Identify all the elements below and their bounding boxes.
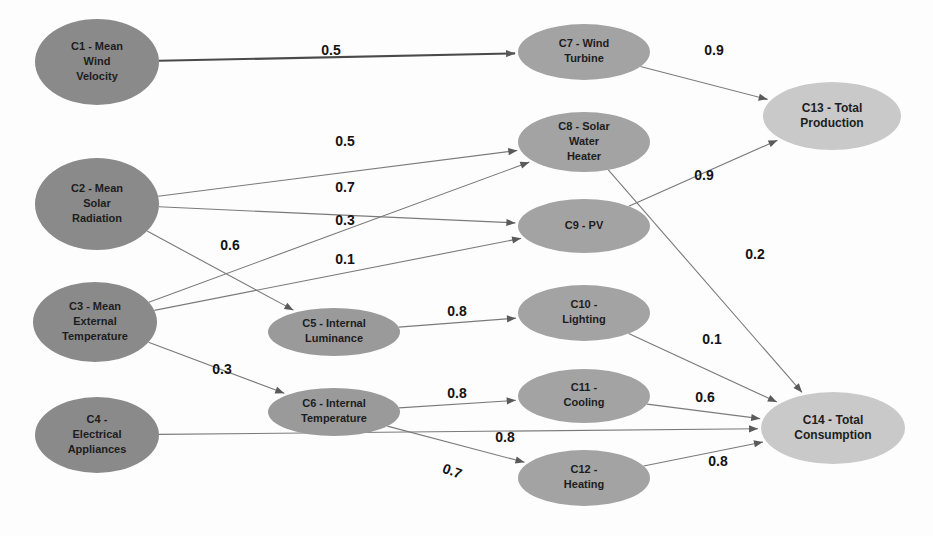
edge-weight-c10-c14: 0.1 — [702, 331, 722, 347]
arrowhead-c3-c6 — [275, 387, 285, 394]
node-shape-c1[interactable] — [35, 19, 159, 105]
node-shape-c9[interactable] — [518, 199, 650, 253]
node-shape-c2[interactable] — [35, 158, 159, 250]
node-shape-c3[interactable] — [33, 282, 157, 362]
node-shape-c5[interactable] — [268, 308, 400, 356]
node-shape-c14[interactable] — [761, 392, 905, 464]
arrowhead-c4-c14 — [749, 425, 758, 432]
edge-weight-c7-c13: 0.9 — [704, 42, 724, 58]
edge-weight-c5-c10: 0.8 — [447, 303, 467, 319]
node-c7[interactable]: C7 - WindTurbine — [518, 24, 650, 80]
edge-weight-c2-c5: 0.6 — [220, 237, 240, 253]
edge-weight-c2-c8: 0.5 — [335, 133, 355, 149]
node-c14[interactable]: C14 - TotalConsumption — [761, 392, 905, 464]
arrowhead-c3-c9 — [512, 237, 522, 244]
node-c11[interactable]: C11 -Cooling — [518, 369, 650, 423]
node-c5[interactable]: C5 - InternalLuminance — [268, 308, 400, 356]
edge-c4-to-c14 — [159, 429, 758, 435]
edge-weight-c12-c14: 0.8 — [708, 453, 728, 469]
node-c9[interactable]: C9 - PV — [518, 199, 650, 253]
node-c3[interactable]: C3 - MeanExternalTemperature — [33, 282, 157, 362]
node-c4[interactable]: C4 -ElectricalAppliances — [35, 397, 159, 473]
node-shape-c7[interactable] — [518, 24, 650, 80]
edge-c3-to-c9 — [154, 238, 521, 310]
edge-weight-c6-c11: 0.8 — [447, 385, 467, 401]
node-c8[interactable]: C8 - SolarWaterHeater — [518, 112, 650, 172]
node-c12[interactable]: C12 -Heating — [518, 450, 650, 506]
arrowhead-c10-c14 — [767, 395, 777, 402]
node-c10[interactable]: C10 -Lighting — [518, 285, 650, 341]
arrowhead-c2-c5 — [284, 303, 294, 310]
arrowhead-c9-c13 — [768, 140, 778, 147]
node-shape-c13[interactable] — [763, 82, 901, 150]
node-shape-c6[interactable] — [268, 388, 400, 436]
edge-weight-c11-c14: 0.6 — [695, 389, 715, 405]
arrowhead-c6-c11 — [507, 397, 516, 404]
node-c6[interactable]: C6 - InternalTemperature — [268, 388, 400, 436]
node-shape-c11[interactable] — [518, 369, 650, 423]
arrowhead-c2-c9 — [506, 219, 515, 226]
edge-c11-to-c14 — [647, 404, 760, 419]
node-c13[interactable]: C13 - TotalProduction — [763, 82, 901, 150]
arrowhead-c5-c10 — [507, 315, 516, 322]
nodes-layer: C1 - MeanWindVelocityC2 - MeanSolarRadia… — [33, 19, 905, 506]
node-shape-c4[interactable] — [35, 397, 159, 473]
node-shape-c8[interactable] — [518, 112, 650, 172]
fcm-graph: C1 - MeanWindVelocityC2 - MeanSolarRadia… — [0, 0, 933, 536]
node-c2[interactable]: C2 - MeanSolarRadiation — [35, 158, 159, 250]
edge-c7-to-c13 — [640, 67, 767, 100]
arrowhead-c11-c14 — [751, 414, 760, 421]
node-c1[interactable]: C1 - MeanWindVelocity — [35, 19, 159, 105]
node-shape-c12[interactable] — [518, 450, 650, 506]
arrowhead-c12-c14 — [754, 440, 764, 447]
edge-weight-c1-c7: 0.5 — [321, 42, 341, 58]
edge-weight-c8-c14: 0.2 — [745, 246, 765, 262]
arrowhead-c6-c12 — [515, 457, 525, 464]
edge-weight-c2-c9: 0.7 — [335, 179, 355, 195]
arrowhead-c2-c8 — [508, 148, 517, 155]
edge-weight-c9-c13: 0.9 — [694, 167, 714, 183]
arrowhead-c1-c7 — [506, 50, 515, 57]
edge-c5-to-c10 — [399, 318, 516, 327]
edge-c8-to-c14 — [608, 170, 802, 393]
edge-weight-c6-c12: 0.7 — [441, 460, 465, 482]
edge-weight-c4-c14: 0.8 — [495, 429, 515, 445]
node-shape-c10[interactable] — [518, 285, 650, 341]
edge-weight-c3-c8: 0.3 — [335, 212, 355, 228]
arrowhead-c3-c8 — [520, 162, 530, 169]
edge-c12-to-c14 — [644, 442, 763, 466]
edge-weight-c3-c9: 0.1 — [335, 251, 355, 267]
fcm-diagram-canvas: C1 - MeanWindVelocityC2 - MeanSolarRadia… — [0, 0, 933, 536]
edge-weight-c3-c6: 0.3 — [212, 361, 232, 377]
edge-c6-to-c11 — [399, 400, 516, 407]
